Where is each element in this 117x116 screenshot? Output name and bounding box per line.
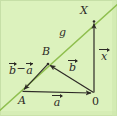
label-origin: 0 bbox=[92, 96, 99, 107]
label-line-g: g bbox=[59, 27, 66, 38]
vector-arrow-overline-icon bbox=[99, 49, 109, 50]
vector-arrow-overline-icon bbox=[9, 63, 16, 64]
label-point-a: A bbox=[18, 95, 26, 106]
label-vector-b-minus-a: b − a bbox=[9, 62, 33, 76]
vector-diagram-figure: X g B A 0 b − a b a x bbox=[0, 0, 117, 116]
minus-operator: − bbox=[16, 62, 26, 76]
label-vector-b: b bbox=[68, 60, 77, 73]
vector-arrow-overline-icon bbox=[52, 95, 62, 96]
point-b-marker bbox=[47, 63, 50, 66]
label-vector-a: a bbox=[52, 95, 62, 108]
point-x-marker bbox=[93, 20, 96, 23]
label-vector-x: x bbox=[99, 49, 109, 62]
label-point-x: X bbox=[80, 5, 88, 16]
label-point-b: B bbox=[42, 46, 50, 57]
label-vector-b-minus-a-b-part: b bbox=[9, 63, 16, 76]
figure-right-edge-shade bbox=[112, 0, 117, 116]
figure-bottom-edge-shade bbox=[0, 111, 117, 116]
vector-arrow-overline-icon bbox=[26, 63, 33, 64]
vector-arrow-overline-icon bbox=[68, 60, 77, 61]
label-vector-b-minus-a-a-part: a bbox=[26, 63, 33, 76]
